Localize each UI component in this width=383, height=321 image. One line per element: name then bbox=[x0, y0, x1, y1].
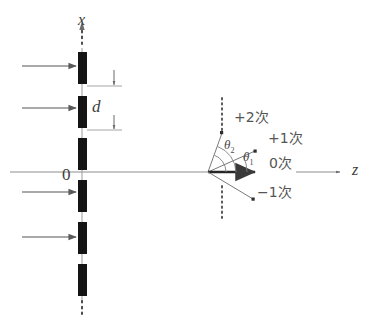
grating-bar bbox=[78, 180, 87, 212]
theta-2-subscript: 2 bbox=[230, 146, 234, 155]
grating-bar bbox=[78, 52, 87, 84]
grating-bar bbox=[78, 138, 87, 170]
figure-canvas bbox=[0, 0, 383, 321]
theta-1-subscript: 1 bbox=[249, 158, 253, 167]
theta-2-label: θ2 bbox=[224, 138, 234, 155]
arc-inner bbox=[214, 155, 226, 172]
incident-beam-arrows bbox=[22, 66, 76, 237]
theta-1-label: θ1 bbox=[243, 150, 253, 167]
ray-minus-1 bbox=[208, 172, 253, 199]
ray-minus-1-endpoint bbox=[252, 198, 255, 201]
grating-bar bbox=[78, 222, 87, 254]
order-label-zero: 0次 bbox=[269, 156, 292, 170]
z-axis-label: z bbox=[352, 162, 358, 178]
origin-label: 0 bbox=[62, 166, 71, 183]
diffraction-grating-figure: x z 0 d +2次 +1次 0次 −1次 θ2 θ1 bbox=[0, 0, 383, 321]
order-label-plus-2: +2次 bbox=[234, 110, 269, 124]
grating-bar bbox=[78, 264, 87, 296]
ray-plus-1-endpoint bbox=[254, 150, 257, 153]
order-label-plus-1: +1次 bbox=[268, 131, 303, 145]
ray-plus-2-endpoint bbox=[220, 131, 223, 134]
grating-bar bbox=[78, 96, 87, 128]
order-label-minus-1: −1次 bbox=[257, 185, 292, 199]
grating-period-label: d bbox=[92, 98, 101, 115]
x-axis-label: x bbox=[78, 12, 85, 28]
